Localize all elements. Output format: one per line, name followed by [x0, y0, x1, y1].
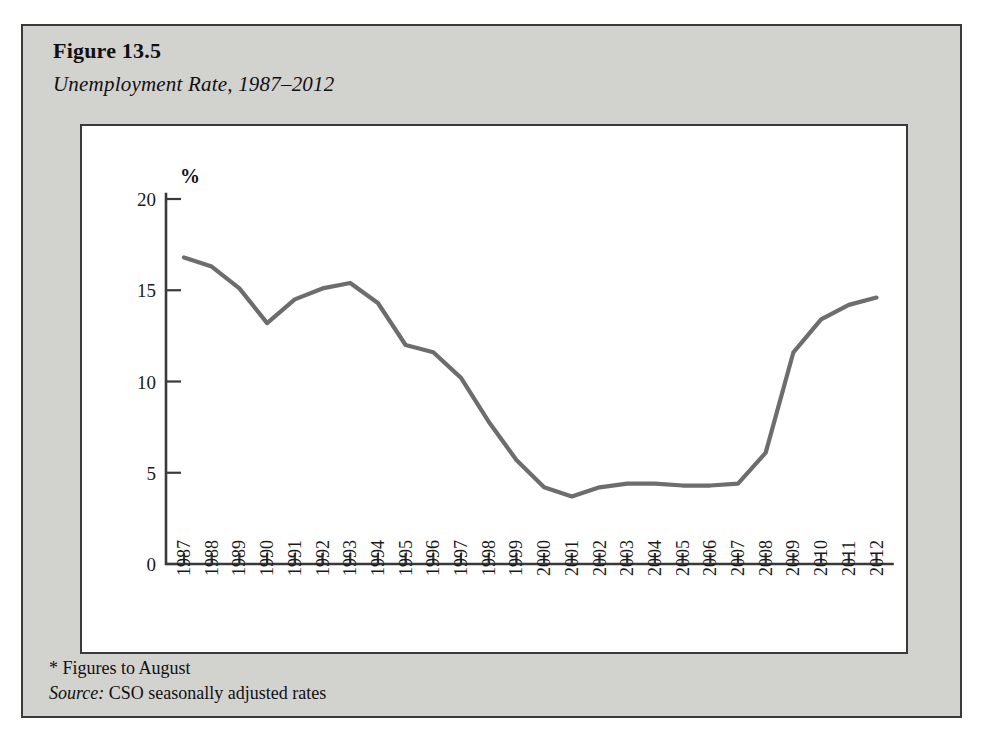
x-tick-label-2000: 2000	[534, 540, 554, 576]
y-tick-label-10: 10	[137, 372, 156, 393]
y-tick-label-0: 0	[147, 554, 157, 575]
x-tick-label-2008: 2008	[756, 540, 776, 576]
figure-footnote: * Figures to August	[49, 658, 191, 679]
source-text: CSO seasonally adjusted rates	[104, 683, 326, 703]
x-tick-label-2010: 2010	[811, 540, 831, 576]
figure-frame: Figure 13.5 Unemployment Rate, 1987–2012…	[21, 24, 962, 718]
plot-panel: 05101520%1987198819891990199119921993199…	[80, 124, 908, 654]
unemployment-line-chart: 05101520%1987198819891990199119921993199…	[82, 126, 906, 652]
x-tick-label-2006: 2006	[700, 540, 720, 576]
y-tick-label-5: 5	[147, 463, 157, 484]
x-tick-label-1989: 1989	[229, 540, 249, 576]
x-tick-label-1990: 1990	[257, 540, 277, 576]
figure-number: Figure 13.5	[53, 38, 161, 64]
source-label: Source:	[49, 683, 104, 703]
chart-axes	[166, 194, 893, 564]
x-tick-label-2009: 2009	[783, 540, 803, 576]
x-tick-label-2011: 2011	[839, 541, 859, 576]
y-tick-label-20: 20	[137, 189, 156, 210]
series-line-0	[184, 257, 877, 496]
x-tick-label-1994: 1994	[368, 540, 388, 576]
x-tick-label-1999: 1999	[506, 540, 526, 576]
x-tick-label-2007: 2007	[728, 540, 748, 576]
figure-source: Source: CSO seasonally adjusted rates	[49, 683, 326, 704]
y-tick-label-15: 15	[137, 280, 156, 301]
x-tick-label-1992: 1992	[313, 540, 333, 576]
x-tick-label-2003: 2003	[617, 540, 637, 576]
y-axis-unit-label: %	[180, 165, 200, 187]
x-tick-label-1988: 1988	[202, 540, 222, 576]
x-tick-label-1993: 1993	[340, 540, 360, 576]
x-tick-label-1997: 1997	[451, 540, 471, 576]
x-tick-label-1998: 1998	[479, 540, 499, 576]
x-tick-label-2004: 2004	[645, 540, 665, 576]
x-tick-label-2001: 2001	[562, 540, 582, 576]
x-tick-label-2005: 2005	[673, 540, 693, 576]
x-tick-label-2002: 2002	[590, 540, 610, 576]
x-tick-label-1995: 1995	[396, 540, 416, 576]
figure-title: Unemployment Rate, 1987–2012	[53, 72, 334, 97]
x-tick-label-1996: 1996	[423, 540, 443, 576]
x-tick-label-1991: 1991	[285, 540, 305, 576]
x-tick-label-1987: 1987	[174, 540, 194, 576]
x-tick-label-2012: 2012	[867, 540, 887, 576]
figure-page: Figure 13.5 Unemployment Rate, 1987–2012…	[0, 0, 987, 749]
